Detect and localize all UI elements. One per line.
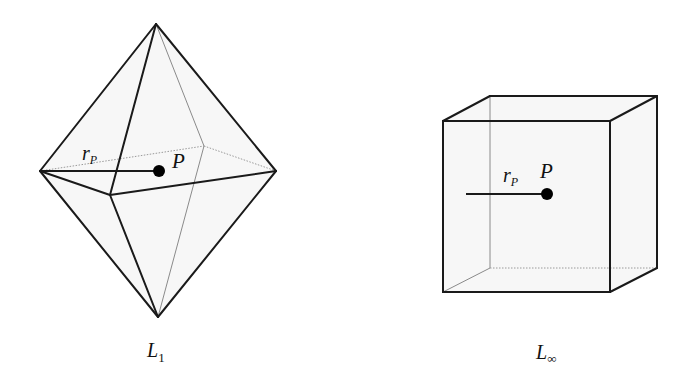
cube-point-p — [541, 188, 553, 200]
cube-point-label: P — [539, 159, 553, 183]
octahedron-point-p — [153, 165, 165, 177]
unit-balls-figure: rP P L1 rP P L∞ — [0, 0, 685, 374]
octahedron-panel: rP P L1 — [40, 24, 276, 365]
octahedron-caption: L1 — [146, 339, 165, 365]
octahedron-point-label: P — [171, 149, 185, 173]
cube-caption: L∞ — [535, 341, 556, 366]
cube-panel: rP P L∞ — [443, 96, 657, 366]
